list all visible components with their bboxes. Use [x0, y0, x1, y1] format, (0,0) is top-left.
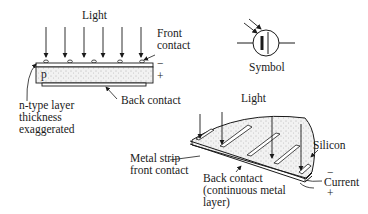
round-plus-sign: + — [327, 187, 334, 199]
n-type-layer-label: n-type layer thickness exaggerated — [19, 99, 75, 135]
back-contact-label: Back contact — [121, 94, 181, 106]
silicon-label: Silicon — [313, 139, 346, 151]
flat-minus-sign: − — [157, 57, 164, 69]
solar-cell-diagram: Light Front contact − + p Back contact n… — [0, 0, 368, 214]
flat-cell-illustration — [27, 27, 155, 101]
symbol-label: Symbol — [249, 61, 285, 73]
front-contact-label: Front contact — [157, 27, 190, 51]
round-light-label: Light — [241, 92, 266, 104]
round-minus-sign: − — [327, 166, 334, 178]
p-region-label: p — [41, 68, 47, 80]
round-back-contact-label: Back contact (continuous metal layer) — [203, 172, 286, 208]
metal-strip-label: Metal strip front contact — [130, 152, 188, 176]
p-region — [36, 67, 153, 83]
light-arrows-icon — [46, 27, 141, 57]
back-contact-plate — [42, 83, 146, 86]
flat-plus-sign: + — [157, 70, 164, 82]
front-contact-dots — [44, 60, 145, 63]
n-type-layer — [36, 63, 153, 67]
photovoltaic-cell-symbol-icon — [237, 19, 295, 56]
flat-light-label: Light — [82, 9, 107, 21]
